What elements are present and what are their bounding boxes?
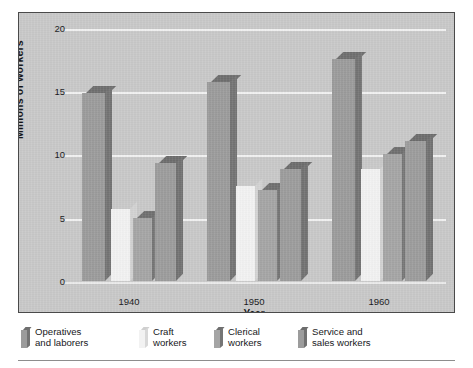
gridline-15 bbox=[64, 92, 446, 94]
clerical-swatch-icon bbox=[214, 327, 222, 348]
bar-1940-service bbox=[155, 156, 176, 281]
bar-1960-operatives bbox=[332, 52, 355, 281]
bar-face bbox=[383, 154, 402, 281]
y-tick-label-10: 10 bbox=[25, 150, 65, 160]
bar-face bbox=[133, 218, 152, 281]
gridline-0 bbox=[64, 282, 446, 284]
bar-face bbox=[405, 141, 426, 281]
operatives-swatch-icon bbox=[21, 327, 29, 348]
bar-face bbox=[361, 169, 380, 281]
bar-face bbox=[111, 209, 130, 281]
legend-item-craft: Craft workers bbox=[139, 325, 187, 349]
y-tick-label-20: 20 bbox=[25, 24, 65, 34]
bar-side bbox=[426, 134, 433, 281]
bar-1960-craft bbox=[361, 162, 380, 281]
axes: 20 15 10 5 0 Millions of workers bbox=[19, 13, 454, 312]
bar-1950-craft bbox=[236, 179, 255, 281]
legend-item-service: Service and sales workers bbox=[298, 325, 371, 349]
x-tick-label-1960: 1960 bbox=[344, 297, 414, 307]
legend-label-service: Service and sales workers bbox=[312, 325, 371, 349]
plot-area: 20 15 10 5 0 Millions of workers bbox=[18, 12, 455, 313]
x-axis-title: Year bbox=[219, 309, 289, 313]
bar-1950-clerical bbox=[258, 183, 277, 281]
bar-1950-operatives bbox=[207, 75, 230, 281]
bar-side bbox=[301, 162, 308, 281]
bar-chart-figure: 20 15 10 5 0 Millions of workers bbox=[0, 0, 473, 368]
y-tick-label-0: 0 bbox=[25, 277, 65, 287]
y-axis-title: Millions of workers bbox=[18, 40, 25, 139]
service-swatch-icon bbox=[298, 327, 306, 348]
bar-face bbox=[258, 190, 277, 281]
legend-label-operatives: Operatives and laborers bbox=[35, 325, 88, 349]
bar-1960-service bbox=[405, 134, 426, 281]
gridline-20 bbox=[64, 29, 446, 31]
legend-label-craft: Craft workers bbox=[153, 325, 187, 349]
bar-side bbox=[176, 156, 183, 281]
bar-face bbox=[82, 93, 105, 281]
bar-face bbox=[280, 169, 301, 281]
bar-face bbox=[236, 186, 255, 281]
bar-face bbox=[155, 163, 176, 281]
bar-1950-service bbox=[280, 162, 301, 281]
bar-face bbox=[207, 82, 230, 281]
craft-swatch-icon bbox=[139, 327, 147, 348]
bar-1960-clerical bbox=[383, 147, 402, 281]
bar-1940-craft bbox=[111, 202, 130, 281]
bar-face bbox=[332, 59, 355, 281]
legend-label-clerical: Clerical workers bbox=[228, 325, 262, 349]
legend-item-clerical: Clerical workers bbox=[214, 325, 262, 349]
bar-1940-clerical bbox=[133, 211, 152, 281]
footer-divider bbox=[18, 360, 455, 361]
legend-item-operatives: Operatives and laborers bbox=[21, 325, 88, 349]
y-tick-label-5: 5 bbox=[25, 214, 65, 224]
chart-legend: Operatives and laborers Craft workers Cl… bbox=[18, 325, 455, 357]
y-tick-label-15: 15 bbox=[25, 87, 65, 97]
bar-1940-operatives bbox=[82, 86, 105, 281]
x-tick-label-1950: 1950 bbox=[219, 297, 289, 307]
x-tick-label-1940: 1940 bbox=[94, 297, 164, 307]
